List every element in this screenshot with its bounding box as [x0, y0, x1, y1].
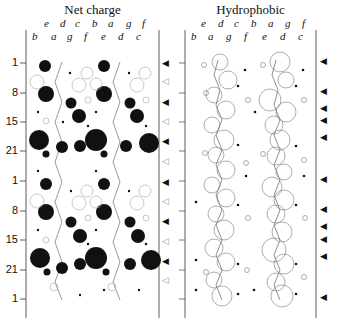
heptad-letter: f	[244, 30, 247, 42]
heptad-letter: a	[268, 17, 274, 29]
open-triangle-icon: ◁	[162, 77, 169, 86]
filled-triangle-icon: ◀	[162, 217, 169, 226]
heptad-letter: d	[280, 30, 286, 42]
y-tick-label: 21	[0, 263, 18, 275]
filled-triangle-icon: ◀	[320, 57, 327, 66]
net-charge-filled-circles	[29, 60, 161, 296]
heptad-letter: e	[201, 17, 206, 29]
net-charge-title: Net charge	[26, 2, 159, 18]
y-axis-ticks-left	[20, 63, 26, 299]
heptad-letter: g	[285, 17, 291, 29]
net-charge-markers: ◀ ◁ ◀ ◁ ◀ ◁ ◀ ◁ ◀ ◁ ◀ ◁	[162, 0, 176, 321]
filled-triangle-icon: ◀	[320, 87, 327, 96]
heptad-letter: g	[226, 30, 232, 42]
y-tick-label: 1	[0, 56, 18, 68]
y-tick-label: 15	[0, 233, 18, 245]
heptad-letter: c	[298, 30, 303, 42]
heptad-letter: b	[191, 30, 197, 42]
open-triangle-icon: ◁	[162, 276, 169, 285]
filled-triangle-icon: ◀	[162, 257, 169, 266]
hydrophobic-backbone	[214, 60, 280, 300]
y-tick-label: 15	[0, 115, 18, 127]
y-tick-label: 8	[0, 204, 18, 216]
filled-triangle-icon: ◀	[162, 98, 169, 107]
open-triangle-icon: ◁	[162, 237, 169, 246]
filled-triangle-icon: ◀	[320, 222, 327, 231]
heptad-letter: b	[251, 17, 257, 29]
filled-triangle-icon: ◀	[320, 205, 327, 214]
y-tick-label: 1	[0, 174, 18, 186]
y-axis-ticks-hydrophobic	[179, 63, 185, 299]
filled-triangle-icon: ◀	[320, 252, 327, 261]
hydrophobic-markers: ◀ ◀ ◀ ◀ ◀ ◀ ◀ ◀ ◀ ◀ ◀	[320, 0, 334, 321]
filled-triangle-icon: ◀	[320, 293, 327, 302]
filled-triangle-icon: ◀	[162, 137, 169, 146]
y-tick-label: 8	[0, 86, 18, 98]
hydrophobic-panel	[185, 30, 316, 318]
heptad-letter: c	[234, 17, 239, 29]
filled-triangle-icon: ◀	[320, 235, 327, 244]
open-triangle-icon: ◁	[162, 157, 169, 166]
filled-triangle-icon: ◀	[320, 104, 327, 113]
filled-triangle-icon: ◀	[162, 59, 169, 68]
heptad-letter: d	[218, 17, 224, 29]
heptad-letter: f	[302, 17, 305, 29]
y-tick-label: 21	[0, 144, 18, 156]
y-tick-label: 1	[0, 292, 18, 304]
open-triangle-icon: ◁	[162, 197, 169, 206]
hydrophobic-title: Hydrophobic	[185, 2, 316, 18]
filled-triangle-icon: ◀	[320, 116, 327, 125]
heptad-letter: a	[208, 30, 214, 42]
filled-triangle-icon: ◀	[162, 178, 169, 187]
filled-triangle-icon: ◀	[320, 133, 327, 142]
filled-triangle-icon: ◀	[320, 175, 327, 184]
heptad-letter: e	[262, 30, 267, 42]
open-triangle-icon: ◁	[162, 117, 169, 126]
hydrophobic-open-circles	[202, 52, 308, 307]
